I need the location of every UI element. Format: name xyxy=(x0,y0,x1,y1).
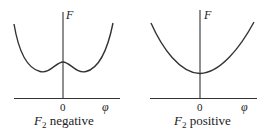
y-axis-label-left: F xyxy=(65,8,74,22)
caption-left: F2 negative xyxy=(33,113,94,130)
origin-label-right: 0 xyxy=(197,101,203,113)
y-axis-label-right: F xyxy=(203,8,212,22)
caption-right: F2 positive xyxy=(173,113,231,130)
diagram-canvas: F 0 φ F2 negative F 0 φ F2 positive xyxy=(0,0,265,132)
x-axis-label-right: φ xyxy=(241,100,248,114)
x-axis-label-left: φ xyxy=(102,100,109,114)
caption-left-rest: negative xyxy=(46,113,94,128)
caption-right-rest: positive xyxy=(186,113,231,128)
panel-f2-negative: F 0 φ F2 negative xyxy=(14,8,120,130)
panel-f2-positive: F 0 φ F2 positive xyxy=(150,8,257,130)
single-well-curve xyxy=(151,22,254,74)
free-energy-diagram: F 0 φ F2 negative F 0 φ F2 positive xyxy=(0,0,265,132)
origin-label-left: 0 xyxy=(60,101,66,113)
